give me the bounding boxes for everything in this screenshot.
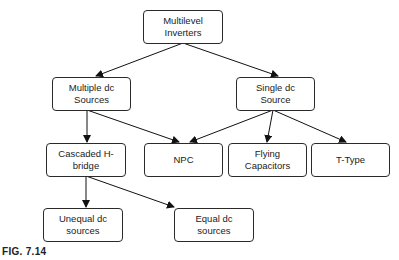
figure-caption: FIG. 7.14 <box>2 246 46 257</box>
edge-single-to-flying <box>267 110 273 142</box>
node-t-type: T-Type <box>311 143 390 177</box>
node-cascaded-h-bridge: Cascaded H- bridge <box>46 143 126 177</box>
edge-single-to-npc <box>190 110 273 142</box>
node-npc: NPC <box>144 143 223 177</box>
node-label: Unequal dc sources <box>59 213 107 237</box>
edge-multiple-to-npc <box>87 110 179 142</box>
node-label: NPC <box>173 154 193 166</box>
edge-multilevel-to-multiple <box>96 43 183 76</box>
edge-cascaded-to-equal <box>86 176 174 207</box>
edge-single-to-ttype <box>273 110 346 142</box>
node-equal-dc-sources: Equal dc sources <box>174 208 254 242</box>
node-multilevel-inverters: Multilevel Inverters <box>143 10 223 44</box>
node-label: T-Type <box>336 154 365 166</box>
node-unequal-dc-sources: Unequal dc sources <box>43 208 123 242</box>
node-label: Cascaded H- bridge <box>58 148 113 172</box>
node-flying-capacitors: Flying Capacitors <box>228 143 307 177</box>
node-single-dc-source: Single dc Source <box>236 77 315 111</box>
node-label: Multilevel Inverters <box>163 15 203 39</box>
node-label: Flying Capacitors <box>245 148 290 172</box>
node-label: Multiple dc Sources <box>69 82 114 106</box>
node-multiple-dc-sources: Multiple dc Sources <box>52 77 131 111</box>
node-label: Equal dc sources <box>196 213 233 237</box>
node-label: Single dc Source <box>256 82 295 106</box>
edge-multilevel-to-single <box>183 43 278 76</box>
